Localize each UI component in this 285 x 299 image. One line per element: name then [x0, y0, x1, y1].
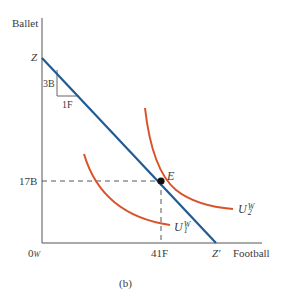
u2-label: UW2 — [238, 203, 254, 217]
budget-line — [42, 58, 216, 243]
u1-label: UW1 — [174, 221, 190, 235]
slope-triangle — [57, 70, 79, 96]
budget-end-label: Z′ — [212, 248, 221, 259]
figure-caption: (b) — [119, 278, 132, 289]
equilibrium-point — [157, 177, 164, 184]
football-value-label: 41F — [151, 248, 168, 259]
origin-subscript: W — [34, 250, 41, 259]
indifference-curve-u2 — [145, 108, 233, 209]
ballet-value-label: 17B — [19, 176, 37, 187]
budget-start-label: Z — [31, 52, 37, 63]
u1-subscript: 1 — [184, 228, 191, 234]
x-axis-label: Football — [233, 248, 270, 259]
indifference-curve-u1 — [84, 154, 170, 225]
equilibrium-label: E — [167, 170, 174, 182]
y-axis-label: Ballet — [12, 18, 38, 29]
u2-subscript: 2 — [248, 210, 255, 216]
slope-rise-label: 3B — [43, 79, 55, 89]
slope-run-label: 1F — [62, 100, 73, 110]
u2-name: U — [238, 202, 247, 216]
u1-name: U — [174, 220, 183, 234]
origin-label: 0W — [28, 248, 40, 259]
